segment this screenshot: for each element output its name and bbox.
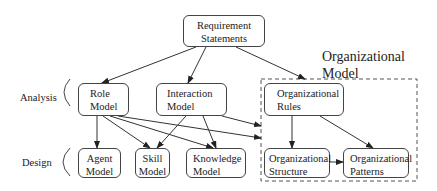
node-organizational-rules[interactable]: Organizational Rules	[264, 83, 344, 116]
node-text: Organizational	[350, 152, 403, 165]
design-label: Design	[22, 157, 52, 168]
node-text: Model	[84, 165, 115, 178]
node-text: Skill	[137, 152, 168, 165]
node-organizational-patterns[interactable]: Organizational Patterns	[343, 148, 409, 178]
node-text: Model	[167, 100, 221, 113]
node-role-model[interactable]: Role Model	[78, 83, 129, 116]
group-title-line2: Model	[322, 65, 405, 82]
node-interaction-model[interactable]: Interaction Model	[156, 83, 227, 116]
node-text: Agent	[84, 152, 115, 165]
group-title-line1: Organizational	[322, 48, 405, 65]
node-text: Model	[137, 165, 168, 178]
node-text: Knowledge	[193, 152, 240, 165]
analysis-label: Analysis	[20, 92, 57, 103]
node-text: Organizational	[277, 87, 338, 100]
node-text: Requirement	[189, 19, 259, 32]
node-text: Rules	[277, 100, 338, 113]
node-text: Organizational	[269, 152, 324, 165]
node-text: Patterns	[350, 165, 403, 178]
node-requirement-statements[interactable]: Requirement Statements	[183, 15, 265, 47]
node-text: Model	[90, 100, 123, 113]
node-skill-model[interactable]: Skill Model	[135, 148, 170, 178]
node-text: Structure	[269, 165, 324, 178]
node-text: Statements	[189, 32, 259, 45]
analysis-bracket-icon	[64, 79, 70, 106]
node-text: Role	[90, 87, 123, 100]
node-text: Model	[193, 165, 240, 178]
node-text: Interaction	[167, 87, 221, 100]
organizational-model-title: Organizational Model	[322, 48, 405, 82]
node-organizational-structure[interactable]: Organizational Structure	[264, 148, 330, 178]
node-knowledge-model[interactable]: Knowledge Model	[186, 148, 246, 178]
design-bracket-icon	[63, 148, 70, 176]
node-agent-model[interactable]: Agent Model	[78, 148, 121, 178]
